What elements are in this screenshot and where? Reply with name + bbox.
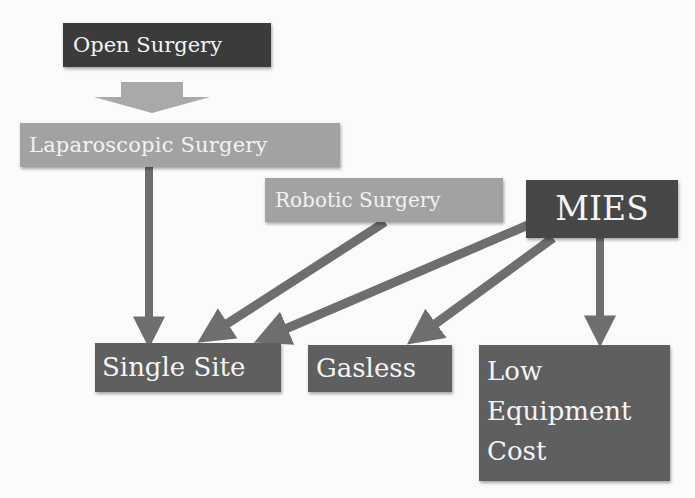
node-label: Single Site — [102, 352, 245, 382]
node-label-line-1: Low — [487, 351, 670, 391]
node-mies: MIES — [526, 180, 678, 238]
arrow-mies-to-gasless — [420, 238, 553, 335]
node-label: Open Surgery — [73, 33, 222, 57]
arrow-robotic-to-single-site — [211, 222, 385, 334]
node-laparoscopic-surgery: Laparoscopic Surgery — [20, 123, 340, 167]
node-robotic-surgery: Robotic Surgery — [265, 178, 503, 222]
node-label: Gasless — [316, 353, 416, 383]
node-label: Laparoscopic Surgery — [29, 133, 268, 157]
node-low-equipment-cost: Low Equipment Cost — [479, 345, 670, 481]
node-label-line-2: Equipment — [487, 391, 670, 431]
node-label: Robotic Surgery — [275, 188, 441, 212]
node-gasless: Gasless — [308, 345, 452, 392]
node-label: MIES — [555, 189, 649, 228]
node-open-surgery: Open Surgery — [63, 23, 271, 67]
node-single-site: Single Site — [95, 343, 281, 392]
node-label-line-3: Cost — [487, 431, 670, 471]
block-arrow-down-icon — [94, 82, 210, 113]
